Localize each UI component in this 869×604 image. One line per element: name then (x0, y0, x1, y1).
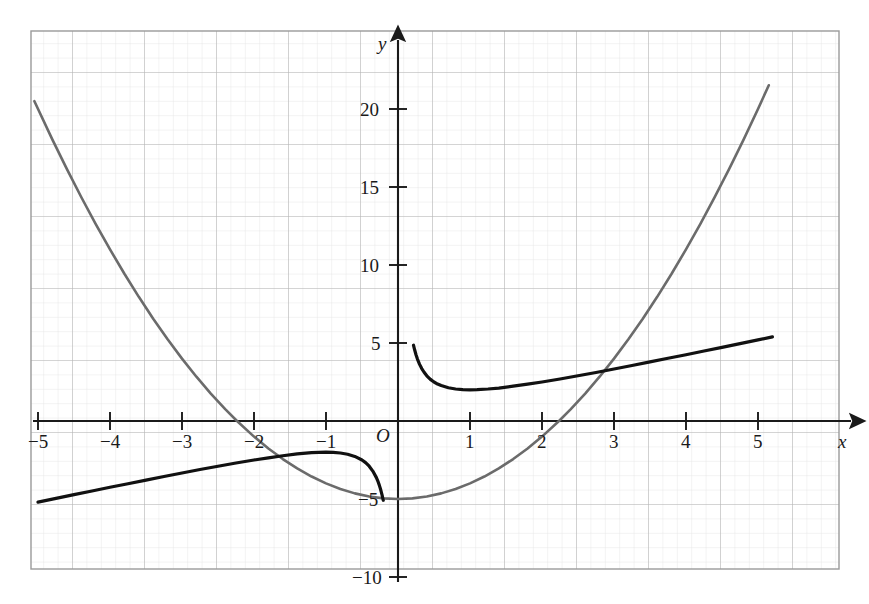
ytick-label-5: 5 (371, 334, 381, 353)
xtick-label-4: 4 (681, 432, 691, 451)
x-axis-label: x (838, 432, 846, 451)
grid-pattern (31, 31, 839, 569)
ytick-label-neg10: −10 (352, 568, 382, 587)
grid (31, 31, 839, 569)
xtick-label-neg4: −4 (100, 432, 120, 451)
xtick-label-neg5: −5 (28, 432, 48, 451)
xtick-label-neg2: −2 (244, 432, 264, 451)
xtick-label-3: 3 (609, 432, 619, 451)
ytick-label-15: 15 (360, 178, 379, 197)
origin-label: O (376, 426, 390, 445)
xtick-label-neg1: −1 (316, 432, 336, 451)
ytick-label-20: 20 (360, 100, 379, 119)
figure-container: −5 −4 −3 −2 −1 1 2 3 4 5 −10 −5 5 10 15 … (0, 0, 869, 604)
xtick-label-2: 2 (537, 432, 547, 451)
graph-canvas (0, 0, 869, 604)
xtick-label-neg3: −3 (172, 432, 192, 451)
xtick-label-1: 1 (465, 432, 475, 451)
ytick-label-neg5: −5 (358, 490, 378, 509)
ytick-label-10: 10 (360, 256, 379, 275)
y-axis-label: y (378, 34, 386, 53)
xtick-label-5: 5 (753, 432, 763, 451)
